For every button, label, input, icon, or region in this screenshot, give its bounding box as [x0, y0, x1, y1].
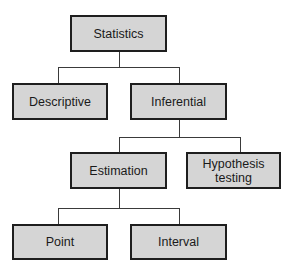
node-label: Point — [46, 235, 75, 249]
connector — [179, 67, 180, 83]
node-statistics: Statistics — [70, 15, 167, 52]
node-point: Point — [12, 224, 108, 260]
connector — [119, 137, 241, 138]
node-label: Inferential — [151, 95, 206, 109]
connector — [58, 67, 59, 83]
node-label: Interval — [158, 235, 199, 249]
connector — [58, 208, 180, 209]
connector — [240, 137, 241, 152]
node-descriptive: Descriptive — [12, 83, 108, 120]
connector — [58, 208, 59, 224]
node-label-line2: testing — [215, 171, 252, 185]
node-label-line1: Hypothesis — [203, 157, 265, 171]
node-interval: Interval — [130, 224, 227, 260]
connector — [179, 208, 180, 224]
connector — [119, 51, 120, 67]
node-label: Statistics — [93, 27, 143, 41]
connector — [58, 67, 180, 68]
connector — [119, 189, 120, 208]
node-label: Estimation — [89, 164, 147, 178]
connector — [179, 120, 180, 137]
node-inferential: Inferential — [130, 83, 227, 120]
node-estimation: Estimation — [70, 152, 167, 189]
node-hypothesis-testing: Hypothesis testing — [186, 152, 281, 189]
connector — [119, 137, 120, 152]
node-label: Descriptive — [29, 95, 91, 109]
